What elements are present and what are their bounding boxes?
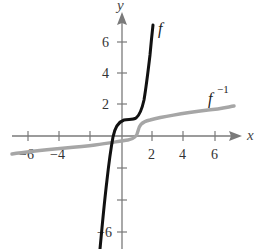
x-tick-label: 6 (211, 147, 218, 162)
curve-f (100, 25, 153, 249)
y-tick-label: 4 (102, 66, 109, 81)
y-axis-label: y (115, 0, 124, 13)
curve-f-inverse (12, 106, 234, 154)
y-tick-label: 6 (102, 35, 109, 50)
x-tick-label: 4 (179, 147, 186, 162)
y-tick-label: −6 (97, 225, 112, 240)
y-tick-label: 2 (102, 97, 109, 112)
f-label: f (158, 20, 165, 38)
f-inverse-superscript: −1 (217, 83, 229, 95)
chart-canvas: −6 −4 2 4 6 6 4 2 −6 x y f f −1 (0, 0, 268, 249)
x-tick-label: 2 (148, 147, 155, 162)
f-inverse-label: f (208, 90, 215, 108)
x-axis-label: x (246, 127, 254, 143)
axes (12, 22, 232, 249)
